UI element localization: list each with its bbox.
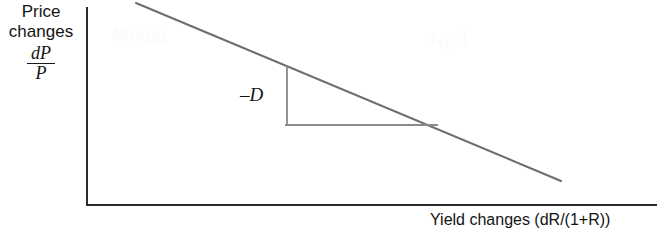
y-axis-label-line2: changes xyxy=(0,22,82,42)
y-axis-label-fraction: dP P xyxy=(27,44,55,83)
x-axis-label: Yield changes (dR/(1+R)) xyxy=(430,210,610,229)
fraction-numerator: dP xyxy=(27,44,55,64)
duration-price-yield-figure: Price changes dP P –D Yield changes (dR/… xyxy=(0,0,666,230)
plot-canvas xyxy=(0,0,666,230)
duration-line xyxy=(136,3,561,181)
y-axis-label-line1: Price xyxy=(0,2,82,22)
slope-label-minus-d: –D xyxy=(240,84,263,105)
y-axis-label: Price changes dP P xyxy=(0,2,82,84)
fraction-denominator: P xyxy=(27,64,55,83)
